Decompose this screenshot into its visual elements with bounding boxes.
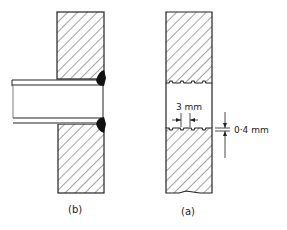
pitch-label: 3 mm [176,102,202,112]
plate-lower-b [58,124,104,193]
plate-upper-a [166,12,212,83]
diagram-canvas: (b) 3 mm 0·4 mm (a) [0,0,287,230]
plate-upper-b [57,12,104,79]
depth-dimension: 0·4 mm [215,112,269,158]
panel-b: (b) [12,12,106,215]
tube [12,80,103,124]
pitch-dimension: 3 mm [172,102,202,127]
panel-a: 3 mm 0·4 mm (a) [166,12,269,217]
plate-lower-a [166,128,212,193]
caption-a: (a) [181,206,195,217]
depth-label: 0·4 mm [234,125,269,135]
caption-b: (b) [68,204,82,215]
